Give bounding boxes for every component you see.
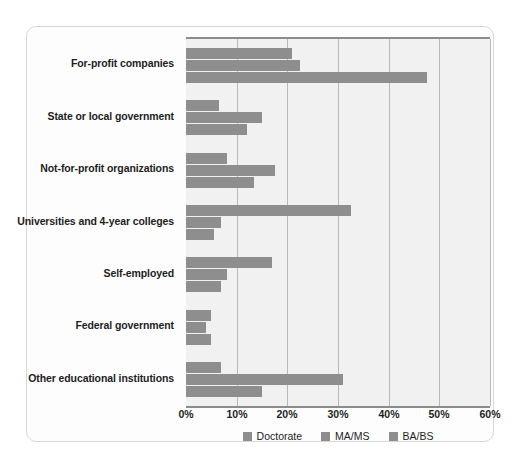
- bar-ma-ms: [186, 112, 262, 123]
- bar-ma-ms: [186, 322, 206, 333]
- bar-doctorate: [186, 100, 219, 111]
- x-tick-label: 60%: [479, 408, 500, 420]
- bar-doctorate: [186, 310, 211, 321]
- legend-item[interactable]: Doctorate: [243, 430, 303, 442]
- chart-screenshot: For-profit companiesState or local gover…: [0, 0, 522, 464]
- x-tick-label: 20%: [276, 408, 297, 420]
- x-tick-label: 50%: [428, 408, 449, 420]
- legend-label: Doctorate: [257, 430, 303, 442]
- chart-legend: DoctorateMA/MSBA/BS: [186, 427, 490, 445]
- gridline: [490, 39, 491, 406]
- category-label: Not-for-profit organizations: [40, 162, 174, 174]
- x-tick-label: 30%: [327, 408, 348, 420]
- category-label: Universities and 4-year colleges: [17, 215, 174, 227]
- bar-ba-bs: [186, 281, 221, 292]
- bar-ma-ms: [186, 60, 300, 71]
- bar-doctorate: [186, 362, 221, 373]
- value-axis: 0%10%20%30%40%50%60%: [186, 408, 490, 424]
- bar-ba-bs: [186, 124, 247, 135]
- chart-card: For-profit companiesState or local gover…: [26, 26, 494, 442]
- bars-layer: [186, 39, 490, 406]
- category-label: Federal government: [75, 319, 174, 331]
- bar-ba-bs: [186, 177, 254, 188]
- bar-doctorate: [186, 48, 292, 59]
- legend-swatch-icon: [243, 432, 252, 441]
- legend-label: BA/BS: [403, 430, 434, 442]
- bar-ma-ms: [186, 374, 343, 385]
- x-tick-label: 10%: [226, 408, 247, 420]
- bar-ma-ms: [186, 165, 275, 176]
- legend-item[interactable]: BA/BS: [389, 430, 434, 442]
- bar-ba-bs: [186, 72, 427, 83]
- legend-label: MA/MS: [335, 430, 369, 442]
- x-tick-label: 0%: [178, 408, 193, 420]
- bar-doctorate: [186, 153, 227, 164]
- bar-doctorate: [186, 205, 351, 216]
- category-label: For-profit companies: [71, 57, 174, 69]
- legend-item[interactable]: MA/MS: [321, 430, 369, 442]
- x-tick-label: 40%: [378, 408, 399, 420]
- bar-ma-ms: [186, 217, 221, 228]
- plot-area: [186, 37, 490, 408]
- bar-ba-bs: [186, 386, 262, 397]
- legend-swatch-icon: [389, 432, 398, 441]
- bar-ba-bs: [186, 334, 211, 345]
- bar-ma-ms: [186, 269, 227, 280]
- legend-swatch-icon: [321, 432, 330, 441]
- category-label: Self-employed: [104, 267, 174, 279]
- bar-doctorate: [186, 257, 272, 268]
- category-label: State or local government: [48, 110, 174, 122]
- category-axis: For-profit companiesState or local gover…: [27, 37, 180, 404]
- bar-ba-bs: [186, 229, 214, 240]
- category-label: Other educational institutions: [28, 372, 174, 384]
